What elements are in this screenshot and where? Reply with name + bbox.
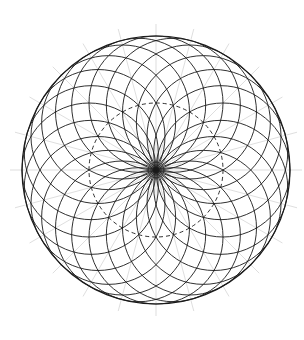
guide-line bbox=[156, 67, 259, 170]
rosette-diagram bbox=[0, 0, 304, 340]
guide-line bbox=[156, 170, 259, 273]
guide-line bbox=[53, 67, 156, 170]
guide-line bbox=[53, 170, 156, 273]
